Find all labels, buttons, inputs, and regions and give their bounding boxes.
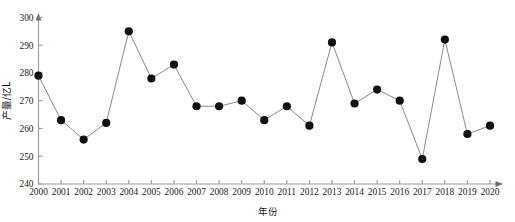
x-axis-ticks	[39, 180, 491, 184]
data-point-2016	[396, 97, 404, 105]
data-point-2005	[147, 74, 155, 82]
x-tick-label-2002: 2002	[74, 187, 93, 197]
data-point-2001	[57, 116, 65, 124]
data-point-2000	[34, 72, 42, 80]
x-tick-label-2001: 2001	[52, 187, 71, 197]
x-tick-label-2006: 2006	[165, 187, 184, 197]
x-tick-label-2020: 2020	[481, 187, 500, 197]
y-axis-ticks	[39, 17, 43, 184]
x-tick-label-2016: 2016	[390, 187, 409, 197]
x-tick-label-2012: 2012	[300, 187, 319, 197]
data-point-2015	[373, 85, 381, 93]
data-point-2020	[486, 122, 494, 130]
data-point-2012	[305, 122, 313, 130]
data-series-line	[39, 31, 491, 159]
y-tick-label-270: 270	[19, 96, 33, 106]
x-axis-tick-labels: 2000200120022003200420052006200720082009…	[29, 187, 500, 197]
x-tick-label-2004: 2004	[119, 187, 138, 197]
data-point-2002	[80, 135, 88, 143]
x-tick-label-2018: 2018	[435, 187, 454, 197]
x-tick-label-2014: 2014	[345, 187, 364, 197]
y-tick-label-250: 250	[19, 152, 33, 162]
y-axis-tick-labels: 240250260270280290300	[19, 13, 33, 190]
y-axis-title: 产量/亿L	[1, 81, 12, 120]
x-tick-label-2013: 2013	[323, 187, 342, 197]
data-point-2008	[215, 102, 223, 110]
x-tick-label-2005: 2005	[142, 187, 161, 197]
x-tick-label-2015: 2015	[368, 187, 387, 197]
x-tick-label-2011: 2011	[278, 187, 297, 197]
line-chart-figure: 240250260270280290300 200020012002200320…	[0, 0, 515, 222]
chart-plot-area: 240250260270280290300 200020012002200320…	[0, 0, 515, 222]
x-axis-title: 年份	[258, 206, 278, 217]
data-point-2006	[170, 61, 178, 69]
x-tick-label-2010: 2010	[255, 187, 274, 197]
data-point-2007	[192, 102, 200, 110]
x-tick-label-2000: 2000	[29, 187, 48, 197]
data-point-2019	[463, 130, 471, 138]
data-point-2009	[238, 97, 246, 105]
x-tick-label-2007: 2007	[187, 187, 206, 197]
data-point-2018	[441, 36, 449, 44]
y-axis-arrow-icon	[36, 13, 42, 21]
y-tick-label-260: 260	[19, 124, 33, 134]
data-point-2003	[102, 119, 110, 127]
x-tick-label-2008: 2008	[210, 187, 229, 197]
data-point-2014	[350, 99, 358, 107]
y-tick-label-290: 290	[19, 41, 33, 51]
y-tick-label-280: 280	[19, 68, 33, 78]
x-tick-label-2019: 2019	[458, 187, 477, 197]
x-tick-label-2003: 2003	[97, 187, 116, 197]
x-tick-label-2017: 2017	[413, 187, 432, 197]
x-tick-label-2009: 2009	[232, 187, 251, 197]
y-tick-label-300: 300	[19, 13, 33, 23]
data-point-2017	[418, 155, 426, 163]
data-point-2010	[260, 116, 268, 124]
data-point-2013	[328, 38, 336, 46]
data-point-2011	[283, 102, 291, 110]
data-point-2004	[125, 27, 133, 35]
